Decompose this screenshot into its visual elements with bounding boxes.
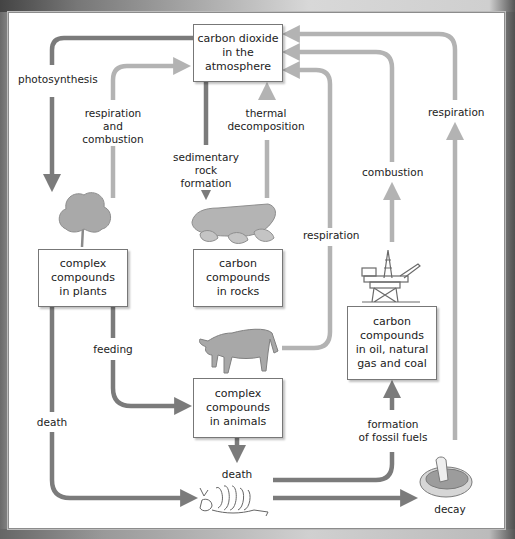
label-decay: decay [432, 503, 468, 516]
mushroom-icon [418, 452, 474, 502]
label-combustion: combustion [362, 166, 422, 179]
arrow-respiration-animals [282, 246, 330, 348]
tree-icon [52, 185, 116, 247]
node-atmosphere: carbon dioxide in the atmosphere [193, 24, 283, 82]
arrow-fossil-formation [273, 452, 392, 480]
rock-icon [188, 200, 280, 248]
label-thermal: thermal decomposition [226, 107, 306, 133]
cow-icon [196, 323, 282, 375]
oil-rig-icon [360, 248, 424, 304]
node-rocks: carbon compounds in rocks [193, 249, 283, 307]
arrow-photosynthesis [52, 38, 193, 65]
skeleton-icon [196, 480, 272, 518]
node-plants: complex compounds in plants [38, 249, 128, 307]
label-death-plants: death [36, 416, 68, 429]
label-photosynthesis: photosynthesis [18, 73, 90, 86]
label-respiration-combustion: respiration and combustion [74, 107, 152, 146]
node-animals: complex compounds in animals [193, 378, 283, 438]
label-fossil-formation: formation of fossil fuels [358, 418, 428, 444]
label-respiration-animals: respiration [303, 229, 359, 242]
node-fossil-fuels: carbon compounds in oil, natural gas and… [347, 306, 437, 380]
label-feeding: feeding [92, 343, 134, 356]
label-sedimentary: sedimentary rock formation [170, 151, 242, 190]
label-respiration-decay: respiration [428, 106, 484, 119]
